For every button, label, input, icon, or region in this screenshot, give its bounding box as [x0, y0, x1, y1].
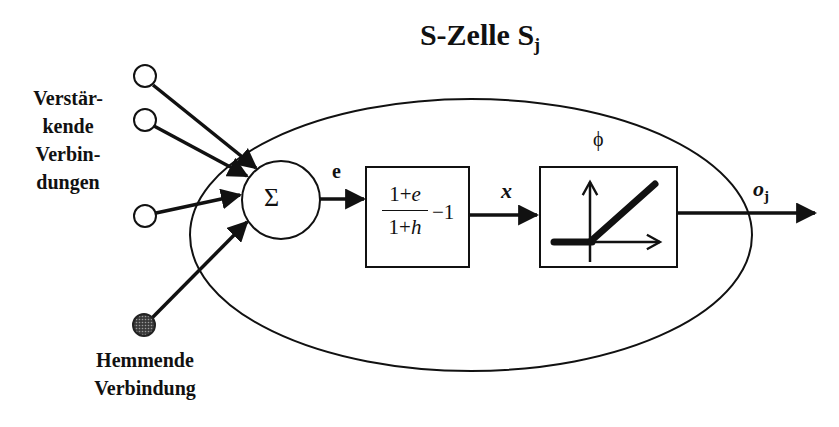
- inhibitory-connection-line: [152, 222, 247, 318]
- inhibitory-label-line: Hemmende: [70, 346, 220, 374]
- formula-suffix: −1: [432, 200, 454, 225]
- excitatory-input-node-2: [134, 109, 156, 131]
- formula-denominator: 1+h: [382, 215, 428, 239]
- inhibitory-connection-label: Hemmende Verbindung: [70, 346, 220, 402]
- sigma-symbol: Σ: [264, 183, 279, 213]
- excitatory-label-line: Verstär-: [8, 84, 128, 112]
- cell-title-subscript: j: [534, 35, 540, 55]
- formula-numerator: 1+e: [382, 182, 428, 206]
- transform-formula: 1+e 1+h −1: [382, 182, 428, 239]
- excitatory-connection-lines: [153, 85, 256, 213]
- activation-function-label: ϕ: [593, 128, 604, 151]
- x-signal-label: x: [501, 178, 512, 204]
- excitatory-label-line: Verbin-: [8, 140, 128, 168]
- fraction-bar: [382, 210, 428, 211]
- inhibitory-label-line: Verbindung: [70, 374, 220, 402]
- summation-node: [242, 161, 320, 239]
- excitatory-label-line: kende: [8, 112, 128, 140]
- cell-title-text: S-Zelle S: [420, 18, 534, 51]
- e-signal-label: e: [332, 160, 341, 183]
- cell-title: S-Zelle Sj: [0, 18, 839, 56]
- output-label: oj: [753, 176, 769, 205]
- inhibitory-input-node: [133, 314, 155, 336]
- excitatory-input-node-1: [134, 65, 156, 87]
- excitatory-connections-label: Verstär- kende Verbin- dungen: [8, 84, 128, 196]
- excitatory-input-node-3: [134, 205, 156, 227]
- excitatory-label-line: dungen: [8, 168, 128, 196]
